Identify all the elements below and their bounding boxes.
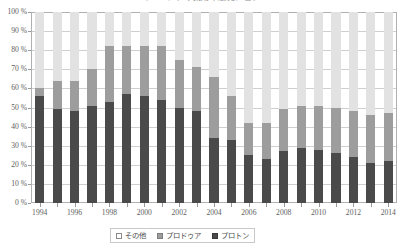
bar-slot xyxy=(136,12,153,203)
legend-swatch-other-icon xyxy=(116,233,122,239)
bar-segment xyxy=(87,12,96,69)
bar-slot xyxy=(205,12,222,203)
x-axis-tick-mark xyxy=(319,203,320,207)
bar-segment xyxy=(331,12,340,108)
bar-segment xyxy=(122,94,131,203)
x-axis-tick-label: 2002 xyxy=(172,208,187,217)
bar-segment xyxy=(384,161,393,203)
bar-segment xyxy=(70,81,79,112)
bar-segment xyxy=(331,153,340,203)
bar-segment xyxy=(349,12,358,111)
x-axis-tick-label: 2010 xyxy=(311,208,326,217)
bar-slot xyxy=(153,12,170,203)
x-axis-tick-mark xyxy=(388,203,389,207)
y-axis-tick-label: 60 % xyxy=(0,84,27,92)
bar-slot xyxy=(188,12,205,203)
bar-slot xyxy=(48,12,65,203)
legend-swatch-perodua-icon xyxy=(157,233,163,239)
bar-segment xyxy=(279,151,288,203)
bar-segment xyxy=(227,12,236,96)
y-axis-tick-label: 80 % xyxy=(0,46,27,54)
y-axis-tick-label: 100 % xyxy=(0,8,27,16)
x-axis-tick-mark xyxy=(336,203,337,207)
x-axis-tick-mark xyxy=(266,203,267,207)
x-axis-tick-label: 1996 xyxy=(67,208,82,217)
bars-container xyxy=(31,12,397,203)
bar-slot xyxy=(327,12,344,203)
bar-segment xyxy=(314,12,323,106)
x-axis-tick-mark xyxy=(127,203,128,207)
x-axis-tick-mark xyxy=(92,203,93,207)
x-axis-tick-mark xyxy=(197,203,198,207)
bar-slot xyxy=(83,12,100,203)
bar-segment xyxy=(314,106,323,150)
bar-segment xyxy=(105,102,114,203)
bar-slot xyxy=(240,12,257,203)
x-axis-tick-mark xyxy=(144,203,145,207)
x-axis-tick-mark xyxy=(353,203,354,207)
bar-segment xyxy=(209,77,218,138)
legend-item-other[interactable]: その他 xyxy=(116,231,146,240)
bar-segment xyxy=(105,12,114,46)
bar-segment xyxy=(140,12,149,46)
y-axis-tick-label: 50 % xyxy=(0,104,27,112)
bar-segment xyxy=(244,12,253,123)
legend-item-proton[interactable]: プロトン xyxy=(212,231,249,240)
bar-segment xyxy=(209,12,218,77)
x-axis-tick-mark xyxy=(214,203,215,207)
legend-item-perodua[interactable]: プロドゥア xyxy=(157,231,201,240)
bar-slot xyxy=(170,12,187,203)
chart-legend: その他 プロドゥア プロトン xyxy=(110,228,255,243)
y-axis-tick-label: 0 % xyxy=(0,199,27,207)
x-axis-tick-mark xyxy=(162,203,163,207)
x-axis-tick-mark xyxy=(371,203,372,207)
x-axis-tick-mark xyxy=(109,203,110,207)
x-axis: 1994199619982000200220042006200820102012… xyxy=(31,203,397,221)
x-axis-tick-mark xyxy=(40,203,41,207)
x-axis-tick-label: 2004 xyxy=(206,208,221,217)
bar-segment xyxy=(157,46,166,99)
x-axis-tick-label: 1994 xyxy=(32,208,47,217)
bar-segment xyxy=(227,140,236,203)
x-axis-tick-mark xyxy=(75,203,76,207)
bar-segment xyxy=(262,12,271,123)
legend-swatch-proton-icon xyxy=(212,233,218,239)
x-axis-tick-label: 2014 xyxy=(381,208,396,217)
bar-segment xyxy=(297,12,306,106)
x-axis-tick-label: 2012 xyxy=(346,208,361,217)
bar-segment xyxy=(140,96,149,203)
bar-segment xyxy=(53,81,62,110)
bar-slot xyxy=(380,12,397,203)
bar-segment xyxy=(331,108,340,154)
bar-segment xyxy=(157,100,166,203)
bar-slot xyxy=(292,12,309,203)
bar-slot xyxy=(310,12,327,203)
bar-segment xyxy=(122,46,131,94)
x-axis-tick-mark xyxy=(284,203,285,207)
bar-segment xyxy=(53,109,62,203)
bar-segment xyxy=(175,108,184,204)
bar-segment xyxy=(175,60,184,108)
bar-segment xyxy=(175,12,184,60)
bar-slot xyxy=(31,12,48,203)
y-axis-tick-label: 70 % xyxy=(0,65,27,73)
x-axis-tick-label: 2006 xyxy=(241,208,256,217)
bar-segment xyxy=(35,12,44,88)
bar-slot xyxy=(101,12,118,203)
bar-segment xyxy=(87,69,96,105)
bar-segment xyxy=(192,67,201,111)
bar-segment xyxy=(209,138,218,203)
x-axis-tick-label: 2008 xyxy=(276,208,291,217)
bar-slot xyxy=(362,12,379,203)
bar-segment xyxy=(105,46,114,101)
y-axis-tick-label: 40 % xyxy=(0,123,27,131)
bar-segment xyxy=(35,88,44,96)
legend-label-proton: プロトン xyxy=(221,231,249,240)
bar-segment xyxy=(314,150,323,203)
y-axis-tick-label: 90 % xyxy=(0,27,27,35)
x-axis-tick-label: 2000 xyxy=(137,208,152,217)
legend-label-other: その他 xyxy=(125,231,146,240)
x-axis-tick-mark xyxy=(57,203,58,207)
bar-segment xyxy=(262,123,271,159)
bar-segment xyxy=(279,109,288,151)
